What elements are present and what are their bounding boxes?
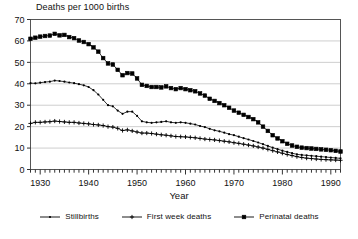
data-point-marker <box>107 104 109 106</box>
data-point-marker <box>91 122 95 126</box>
y-axis-tick-label: 30 <box>14 100 24 110</box>
series-line <box>31 34 341 152</box>
data-point-marker <box>130 214 134 218</box>
x-axis-tick-label: 1960 <box>175 178 195 188</box>
data-point-marker <box>189 88 193 92</box>
x-axis-tick-label: 1990 <box>321 178 341 188</box>
legend-label: Stillbirths <box>65 212 99 221</box>
data-point-marker <box>149 131 153 135</box>
data-point-marker <box>53 119 57 123</box>
data-point-marker <box>184 122 186 124</box>
data-point-marker <box>208 137 212 141</box>
data-point-marker <box>155 85 159 89</box>
data-point-marker <box>87 122 91 126</box>
data-point-marker <box>213 99 217 103</box>
data-point-marker <box>112 105 114 107</box>
data-point-marker <box>261 125 265 129</box>
data-point-marker <box>198 92 202 96</box>
data-point-marker <box>49 81 51 83</box>
data-point-marker <box>227 106 231 110</box>
data-point-marker <box>101 123 105 127</box>
data-point-marker <box>126 111 128 113</box>
data-point-marker <box>222 103 226 107</box>
data-point-marker <box>87 42 91 46</box>
legend-item-stillbirths[interactable]: Stillbirths <box>39 212 99 222</box>
data-point-marker <box>257 141 259 143</box>
data-point-marker <box>97 93 99 95</box>
data-point-marker <box>77 39 81 43</box>
legend-item-first-week-deaths[interactable]: First week deaths <box>121 212 211 222</box>
data-point-marker <box>208 97 212 101</box>
data-point-marker <box>77 121 81 125</box>
data-point-marker <box>39 82 41 84</box>
data-point-marker <box>238 136 240 138</box>
data-point-marker <box>213 129 215 131</box>
data-point-marker <box>53 32 57 36</box>
y-axis-tick-label: 60 <box>14 36 24 46</box>
data-point-marker <box>101 56 105 60</box>
data-point-marker <box>295 155 299 159</box>
legend-item-perinatal-deaths[interactable]: Perinatal deaths <box>233 212 318 222</box>
data-point-marker <box>159 86 163 90</box>
data-point-marker <box>111 63 115 67</box>
data-point-marker <box>44 81 46 83</box>
data-point-marker <box>222 139 226 143</box>
data-point-marker <box>314 157 318 161</box>
y-axis-tick-label: 40 <box>14 79 24 89</box>
data-point-marker <box>106 125 110 129</box>
chart-plot-area: 0102030405060701930194019501960197019801… <box>0 0 358 200</box>
data-point-marker <box>324 158 328 162</box>
data-point-marker <box>272 147 274 149</box>
data-point-marker <box>217 138 221 142</box>
data-point-marker <box>126 71 130 75</box>
data-point-marker <box>334 158 338 162</box>
data-point-marker <box>159 133 163 137</box>
data-point-marker <box>227 140 231 144</box>
data-point-marker <box>150 122 152 124</box>
data-point-marker <box>334 149 338 153</box>
data-point-marker <box>38 35 42 39</box>
data-point-marker <box>304 156 308 160</box>
data-point-marker <box>125 128 129 132</box>
series-stillbirths <box>29 79 341 159</box>
data-point-marker <box>67 120 71 124</box>
data-point-marker <box>271 133 275 137</box>
data-point-marker <box>198 136 202 140</box>
legend-label: Perinatal deaths <box>259 212 318 221</box>
data-point-marker <box>324 148 328 152</box>
data-point-marker <box>170 121 172 123</box>
data-point-marker <box>175 122 177 124</box>
data-point-marker <box>193 136 197 140</box>
data-point-marker <box>305 146 309 150</box>
data-point-marker <box>131 111 133 113</box>
data-point-marker <box>310 147 314 151</box>
data-point-marker <box>314 147 318 151</box>
data-point-marker <box>194 123 196 125</box>
data-point-marker <box>97 50 101 54</box>
data-point-marker <box>228 133 230 135</box>
x-axis-tick-label: 1970 <box>224 178 244 188</box>
legend-marker-square-icon <box>233 212 255 222</box>
x-axis-tick-label: 1950 <box>127 178 147 188</box>
data-point-marker <box>48 120 52 124</box>
data-point-marker <box>309 156 313 160</box>
legend-label: First week deaths <box>147 212 211 221</box>
data-point-marker <box>34 36 38 40</box>
data-point-marker <box>169 134 173 138</box>
data-point-marker <box>174 87 178 91</box>
data-point-marker <box>203 137 207 141</box>
data-point-marker <box>276 137 280 141</box>
legend-marker-plus-icon <box>121 212 143 222</box>
data-point-marker <box>160 121 162 123</box>
data-point-marker <box>121 73 125 77</box>
data-point-marker <box>338 158 342 162</box>
y-axis-tick-label: 50 <box>14 58 24 68</box>
chart-legend: StillbirthsFirst week deathsPerinatal de… <box>0 212 358 222</box>
data-point-marker <box>247 138 249 140</box>
data-point-marker <box>242 113 246 117</box>
data-point-marker <box>102 99 104 101</box>
data-point-marker <box>136 115 138 117</box>
data-point-marker <box>92 46 96 50</box>
data-point-marker <box>57 119 61 123</box>
data-point-marker <box>290 153 294 157</box>
